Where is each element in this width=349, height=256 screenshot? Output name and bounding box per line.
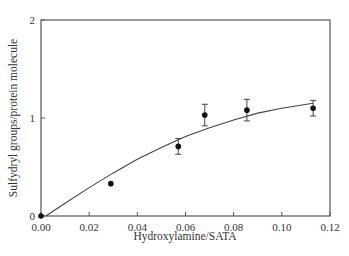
x-tick-label: 0.02: [80, 221, 99, 233]
y-tick-label: 1: [30, 112, 36, 124]
fit-curve: [46, 103, 313, 216]
data-point: [38, 213, 44, 219]
data-points: [38, 99, 316, 218]
axis-ticks: 0.000.020.040.060.080.100.12012: [30, 14, 340, 233]
plot-border: [41, 20, 330, 216]
y-tick-label: 0: [30, 210, 36, 222]
y-axis-label: Sulfydryl groups/protein molecule: [7, 39, 20, 197]
chart: 0.000.020.040.060.080.100.12012 Hydroxyl…: [0, 0, 349, 256]
plot-frame: [41, 20, 330, 216]
x-tick-label: 0.12: [320, 221, 339, 233]
x-tick-label: 0.10: [272, 221, 292, 233]
x-axis-label: Hydroxylamine/SATA: [133, 230, 237, 243]
y-tick-label: 2: [30, 14, 36, 26]
data-point: [310, 100, 316, 116]
x-tick-label: 0.00: [31, 221, 51, 233]
data-point: [244, 99, 250, 121]
data-point: [202, 104, 208, 126]
data-point: [108, 181, 114, 187]
